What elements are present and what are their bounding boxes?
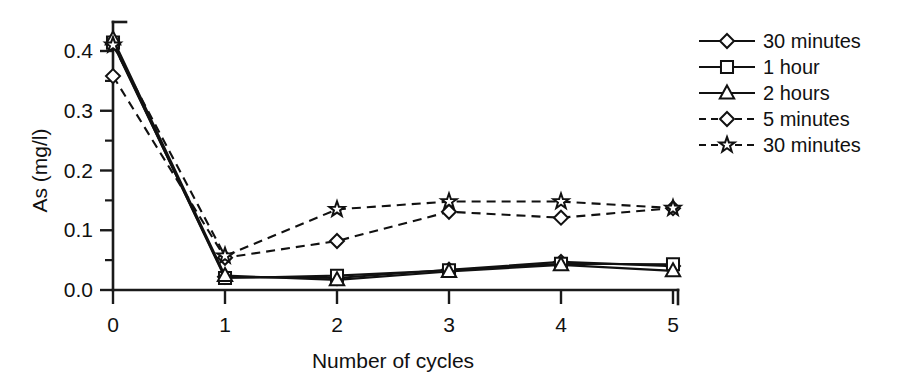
legend-item-label: 2 hours [757,81,830,105]
legend-item[interactable]: 30 minutes [697,132,897,158]
y-tick-label: 0.0 [64,278,93,301]
legend-item-label: 30 minutes [757,133,861,157]
axes: 0.00.10.20.30.4012345 [64,22,679,336]
data-point-marker-star [441,194,456,209]
series-line-4 [113,45,673,256]
legend-marker-star [697,133,757,157]
legend-item-label: 30 minutes [757,29,861,53]
x-tick-label: 4 [555,313,567,336]
chart-legend: 30 minutes1 hour2 hours5 minutes30 minut… [697,28,897,158]
data-point-marker-star [329,201,344,216]
series-line-1 [113,43,673,278]
series-line-3 [113,76,673,258]
data-point-marker-star [553,194,568,209]
y-tick-label: 0.3 [64,99,93,122]
legend-item-label: 5 minutes [757,107,850,131]
legend-item[interactable]: 5 minutes [697,106,897,132]
data-series-group [105,31,680,285]
series-line-0 [113,44,673,278]
data-point-marker-diamond [554,211,568,225]
legend-marker-diamond [697,29,757,53]
y-tick-label: 0.2 [64,159,93,182]
legend-item[interactable]: 1 hour [697,54,897,80]
x-tick-label: 3 [443,313,455,336]
axis-labels: Number of cyclesAs (mg/l) [28,129,474,373]
legend-item-label: 1 hour [757,55,820,79]
legend-item[interactable]: 30 minutes [697,28,897,54]
data-point-marker-diamond [330,234,344,248]
x-tick-label: 1 [219,313,231,336]
legend-item[interactable]: 2 hours [697,80,897,106]
series-line-2 [113,39,673,280]
x-tick-label: 5 [667,313,679,336]
y-tick-label: 0.1 [64,218,93,241]
legend-marker-diamond [697,107,757,131]
chart-figure: 0.00.10.20.30.4012345 Number of cyclesAs… [0,0,901,377]
x-tick-label: 0 [107,313,119,336]
legend-marker-triangle [697,81,757,105]
y-axis-title: As (mg/l) [28,129,51,213]
x-tick-label: 2 [331,313,343,336]
y-tick-label: 0.4 [64,39,94,62]
x-axis-title: Number of cycles [312,349,474,372]
legend-marker-square [697,55,757,79]
data-point-marker-star [665,200,680,215]
